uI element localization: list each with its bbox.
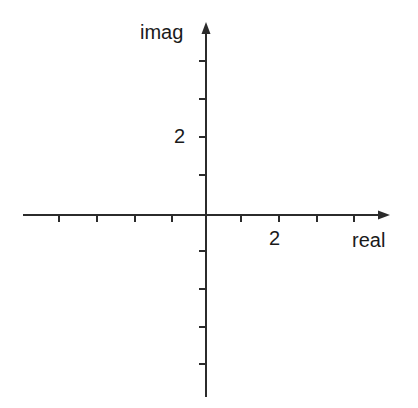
real-axis-arrowhead: [378, 211, 390, 220]
imag-tick-label-2: 2: [174, 126, 185, 146]
imag-axis-arrowhead: [202, 22, 211, 34]
real-axis-label: real: [352, 230, 385, 250]
complex-plane-figure: imag real 2 2: [0, 0, 418, 408]
axes-svg: [0, 0, 418, 408]
real-tick-label-2: 2: [269, 228, 280, 248]
imag-axis-label: imag: [140, 22, 183, 42]
